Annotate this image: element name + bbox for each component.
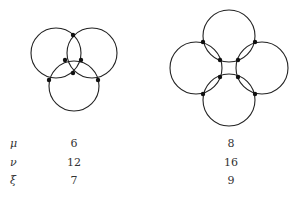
vertex-dot-4 bbox=[47, 78, 51, 82]
vertex-dot-1 bbox=[253, 40, 257, 44]
circle-2 bbox=[49, 61, 99, 111]
nu-value-right: 16 bbox=[224, 156, 238, 169]
vertex-dot-2 bbox=[218, 58, 222, 62]
vertex-dot-5 bbox=[236, 75, 240, 79]
vertex-dot-2 bbox=[79, 58, 83, 62]
vertex-dot-3 bbox=[71, 71, 75, 75]
four-circle-figure bbox=[170, 10, 288, 126]
vertex-dot-3 bbox=[236, 58, 240, 62]
circle-2 bbox=[236, 42, 288, 94]
xi-label: ξ bbox=[10, 174, 16, 187]
mu-value-right: 8 bbox=[228, 137, 235, 150]
xi-value-left: 7 bbox=[71, 174, 78, 187]
three-circle-figure bbox=[31, 28, 117, 111]
mu-label: μ bbox=[10, 137, 17, 150]
xi-value-right: 9 bbox=[228, 174, 235, 187]
vertex-dot-7 bbox=[253, 92, 257, 96]
circle-0 bbox=[203, 10, 255, 62]
nu-label: ν bbox=[10, 156, 17, 169]
vertex-dot-0 bbox=[201, 40, 205, 44]
vertex-dot-6 bbox=[201, 92, 205, 96]
vertex-dot-1 bbox=[63, 58, 67, 62]
vertex-dot-5 bbox=[96, 78, 100, 82]
circle-diagrams bbox=[0, 0, 301, 130]
mu-value-left: 6 bbox=[71, 137, 78, 150]
nu-value-left: 12 bbox=[67, 156, 81, 169]
vertex-dot-0 bbox=[71, 33, 75, 37]
vertex-dot-4 bbox=[218, 75, 222, 79]
circle-1 bbox=[170, 42, 222, 94]
circle-3 bbox=[203, 74, 255, 126]
